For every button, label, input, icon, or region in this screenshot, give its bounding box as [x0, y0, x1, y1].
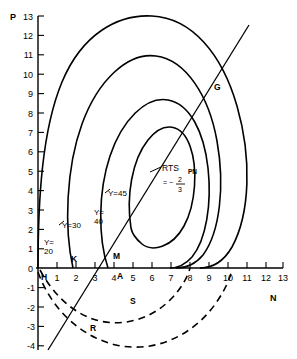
y-tick-7: 7	[28, 128, 33, 138]
rts-ridge-line	[48, 25, 249, 350]
x-tick-9: 9	[206, 273, 211, 283]
rts-label-subscript: PN	[188, 168, 197, 175]
point-label-G: G	[214, 82, 221, 92]
point-label-H: H	[41, 272, 47, 282]
contour-label-y20-line1: Y=	[44, 238, 54, 247]
y-tick-10: 10	[23, 70, 33, 80]
contour-y45	[129, 127, 195, 248]
chart-root: 13 12 11 10 9 8 7 6 5 4 3 2 1 0 -1 -2 -3…	[0, 0, 297, 359]
x-tick-5: 5	[130, 273, 135, 283]
x-axis-title: N	[270, 293, 277, 303]
y-tick-labels: 13 12 11 10 9 8 7 6 5 4 3 2 1 0 -1 -2 -3…	[23, 12, 35, 352]
x-tick-11: 11	[242, 273, 251, 283]
contour-label-y45: Y=45	[108, 189, 127, 198]
point-label-S: S	[130, 296, 136, 306]
contour-labels: Y= 20 Y=30 Y= 40 Y=45	[44, 189, 127, 256]
rts-denominator: 3	[178, 186, 182, 193]
x-tick-labels: 1 2 3 4 5 6 7 8 9 10 11 12 13	[54, 273, 288, 283]
contour-y20	[38, 16, 247, 268]
x-tick-7: 7	[168, 273, 173, 283]
y-tick-2: 2	[28, 225, 33, 235]
contour-label-y40-line1: Y=	[94, 208, 104, 217]
y-tick-13: 13	[23, 12, 33, 22]
point-label-A: A	[117, 271, 123, 281]
rts-equals-sign: = −	[163, 179, 173, 186]
contour-label-y40-line2: 40	[94, 217, 103, 226]
y-tick-0: 0	[28, 264, 33, 274]
contour-label-y30: Y=30	[62, 221, 81, 230]
point-label-M: M	[113, 251, 120, 261]
y-tick-1: 1	[28, 244, 33, 254]
y-tick-5: 5	[28, 167, 33, 177]
y-tick-9: 9	[28, 89, 33, 99]
x-tick-2: 2	[73, 273, 78, 283]
y-tick-n4: -4	[27, 341, 35, 351]
point-label-R: R	[90, 323, 96, 333]
x-tick-8: 8	[187, 273, 192, 283]
contour-y30	[68, 56, 221, 268]
y-axis-title: P	[10, 12, 16, 22]
x-tick-marks	[57, 262, 283, 268]
x-tick-1: 1	[54, 273, 59, 283]
x-tick-13: 13	[278, 273, 288, 283]
y-tick-11: 11	[24, 50, 33, 60]
rts-numerator: 2	[178, 176, 182, 183]
rts-label-main: RTS	[162, 163, 179, 173]
axes-group	[36, 16, 283, 350]
y-tick-6: 6	[28, 147, 33, 157]
x-tick-12: 12	[261, 273, 271, 283]
y-tick-n1: -1	[27, 283, 35, 293]
contour-label-y20-line2: 20	[44, 247, 53, 256]
y-tick-8: 8	[28, 109, 33, 119]
contour-y40	[101, 100, 209, 268]
y-tick-12: 12	[23, 31, 33, 41]
x-tick-4: 4	[111, 273, 116, 283]
y-tick-n2: -2	[27, 303, 35, 313]
y-tick-n3: -3	[27, 322, 35, 332]
point-label-K: K	[71, 254, 78, 264]
production-isoquant-chart: 13 12 11 10 9 8 7 6 5 4 3 2 1 0 -1 -2 -3…	[0, 0, 297, 359]
y-tick-3: 3	[28, 206, 33, 216]
y-tick-4: 4	[28, 186, 33, 196]
rts-annotation: RTS PN = − 2 3	[150, 163, 197, 193]
x-tick-6: 6	[149, 273, 154, 283]
